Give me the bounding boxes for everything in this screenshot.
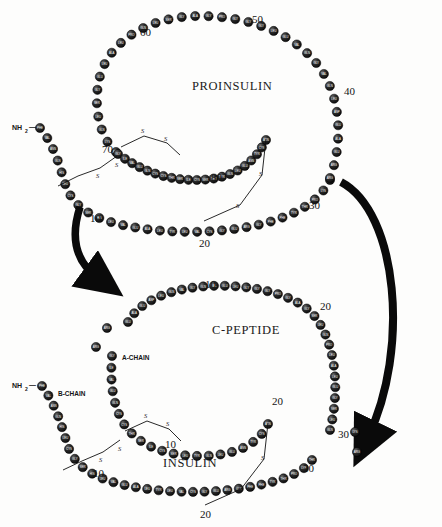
cleavage-arrows [75,182,393,437]
c-peptide-position-numbers: 10 20 30 [205,278,350,440]
proinsulin-b-residue-23 [254,220,263,229]
proinsulin-c-residue-17 [231,15,240,24]
insulin-a-residue-17 [227,447,236,456]
insulin-a-residue-4 [108,387,117,396]
insulin-b-residue-2 [44,391,53,400]
proinsulin-c-residue-7 [330,94,339,103]
c-peptide-residue-5 [157,291,166,300]
proinsulin-c-residue-8 [325,81,334,90]
insulin-b-residue-4 [54,412,63,421]
pos-num-ins-b30: 30 [303,462,315,474]
proinsulin-b-residue-7 [66,191,75,200]
proinsulin-c-residue-5 [334,121,343,130]
proinsulin-c-residue-14 [269,26,278,35]
insulin-a-residue-13 [181,451,190,460]
insulin-b-residue-17 [165,487,174,496]
sulfur-label-3: S [115,161,119,168]
insulin-sulfur-1: S [144,412,148,419]
pos-num-cpep-10: 10 [205,278,217,290]
insulin-a-residue-19 [249,437,258,446]
c-peptide-residue-22 [321,330,330,339]
proinsulin-b-residue-26 [289,208,298,217]
proinsulin-c-residue-11 [302,49,311,58]
c-peptide-title: C-PEPTIDE [212,323,280,337]
proinsulin-b-residue-29 [319,186,328,195]
insulin-nh2-subscript: 2 [25,386,28,392]
proinsulin-c-residue-10 [312,58,321,67]
proinsulin-title: PROINSULIN [192,79,272,93]
pos-num-cpep-30: 30 [338,428,350,440]
proinsulin-a-residue-9 [175,175,184,184]
b-chain-label: B-CHAIN [58,390,86,397]
insulin-sulfur-3: S [118,445,122,452]
insulin-a-residue-2 [107,363,116,372]
c-peptide-residue-25 [329,361,338,370]
c-peptide-residue-17 [283,293,292,302]
insulin-sulfur-2: S [166,420,170,427]
insulin-b-residue-15 [143,484,152,493]
c-peptide-residue-3 [138,301,147,310]
insulin-a-residue-8 [127,429,136,438]
c-peptide-residue-19 [302,304,311,313]
proinsulin-b-residue-21 [230,224,239,233]
proinsulin-b-residue-1 [35,123,44,132]
proinsulin-c-residue-4 [333,134,342,143]
pos-num-pro-20: 20 [199,237,211,249]
proinsulin-c-residue-21 [177,13,186,22]
insulin-a-residue-16 [216,450,225,459]
proinsulin-c-residue-26 [116,38,125,47]
proinsulin-insulin-diagram: PROINSULIN NH 2 — PHEVALASNGLNHISLEUCYSG… [0,0,442,527]
proinsulin-b-residue-17 [180,227,189,236]
proinsulin-c-residue-18 [217,13,226,22]
pos-num-ins-a10: 10 [165,438,177,450]
insulin-b-residue-27 [279,474,288,483]
proinsulin-residue-chain: PHEVALASNGLNHISLEUCYSGLYSERHISLEUVALGLUA… [35,11,342,236]
proinsulin-b-residue-4 [53,156,62,165]
c-peptide-residue-13 [242,283,251,292]
pos-num-ins-b20: 20 [200,508,212,520]
disulfide-bond-a6-a11 [121,136,180,155]
insulin-a-residue-5 [111,398,120,407]
insulin-a-residue-20 [257,429,266,438]
insulin-a-residue-7 [120,420,129,429]
proinsulin-b-residue-15 [155,226,164,235]
insulin-b-residue-3 [49,401,58,410]
proinsulin-b-residue-16 [168,227,177,236]
insulin-nh2-label: NH [12,382,22,389]
c-peptide-residue-27 [331,383,340,392]
pos-num-pro-70: 70 [102,143,114,155]
insulin-a-residue-10 [147,442,156,451]
c-peptide-residue-12 [231,282,240,291]
insulin-b-residue-20 [200,487,209,496]
proinsulin-b-residue-13 [131,223,140,232]
c-peptide-residue-11 [220,281,229,290]
insulin-a-residue-14 [192,451,201,460]
free-basic-residue-2 [91,342,100,351]
pos-num-pro-50: 50 [252,13,264,25]
cleavage-arrow-right [341,182,393,437]
proinsulin-a-residue-10 [184,175,193,184]
c-peptide-residue-26 [330,372,339,381]
pos-num-cpep-20: 20 [320,300,332,312]
insulin-b-n-terminus: NH 2 — [12,381,36,392]
c-peptide-residue-1 [123,317,132,326]
c-peptide-residue-4 [147,296,156,305]
free-basic-residue-1 [102,323,111,332]
proinsulin-c-residue-30 [93,85,102,94]
proinsulin-c-residue-9 [319,69,328,78]
proinsulin-c-residue-32 [94,112,103,121]
proinsulin-c-residue-25 [127,30,136,39]
proinsulin-nh2-dash: — [29,123,36,130]
insulin-group: INSULIN A-CHAIN B-CHAIN NH 2 — GLYILEVAL… [12,351,317,520]
proinsulin-c-residue-31 [92,99,101,108]
c-peptide-residue-8 [188,283,197,292]
insulin-b-residue-7 [64,444,73,453]
pos-num-pro-10: 10 [90,212,102,224]
c-peptide-residue-6 [167,288,176,297]
pos-num-pro-80: 80 [211,171,223,183]
insulin-a-residue-6 [114,409,123,418]
figure-canvas: PROINSULIN NH 2 — PHEVALASNGLNHISLEUCYSG… [0,0,442,527]
insulin-disulfide-a7-b7 [63,440,120,470]
insulin-a-residue-12 [169,449,178,458]
c-peptide-residue-16 [273,290,282,299]
